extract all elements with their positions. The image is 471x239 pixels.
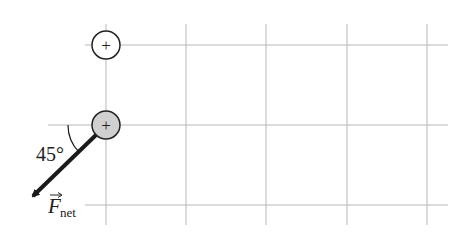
- charge-sign: +: [101, 36, 111, 55]
- force-label: F net: [47, 193, 76, 221]
- angle-arc: [68, 125, 79, 152]
- charge-bottom: +: [92, 111, 120, 139]
- force-label-main: F: [47, 194, 61, 218]
- angle-label: 45°: [36, 143, 64, 165]
- charge-top: +: [92, 31, 120, 59]
- force-diagram: + + 45° F net: [0, 0, 471, 239]
- force-label-sub: net: [60, 205, 76, 220]
- charge-sign: +: [101, 116, 111, 135]
